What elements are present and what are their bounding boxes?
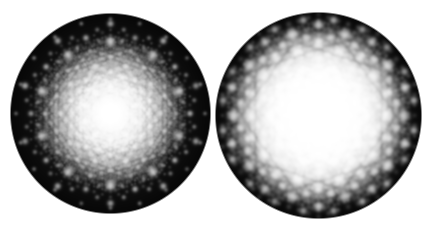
right-pattern-canvas [0,0,435,225]
diffraction-figure: Electron diffraction patterns Left diffr… [0,0,435,225]
right-diffraction-pattern [0,0,435,225]
